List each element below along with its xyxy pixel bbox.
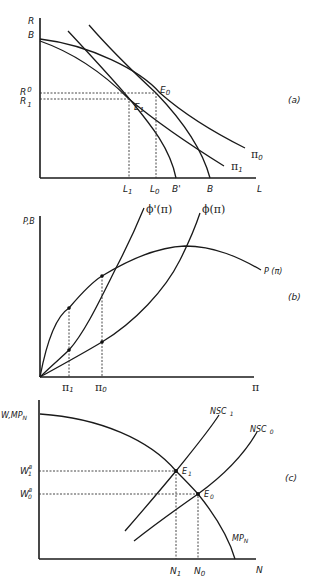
panel-b: P,B ϕ'(π) ϕ(π) P (π) (b) π1 π0 π xyxy=(23,203,301,394)
e1-label: E1 xyxy=(134,102,144,114)
w-mpn-axis-label: W,MPN xyxy=(1,411,28,421)
economic-diagram: R B R0 R1 E0 E1 L1 L0 B' B L π0 π1 (a) P… xyxy=(0,0,310,587)
panel-c: W,MPN W1B W0B NSC1 NSC0 MPN E1 E0 (c) N1… xyxy=(1,400,297,578)
l0-label: L0 xyxy=(150,184,160,196)
pi0-curve-label: π0 xyxy=(251,148,263,162)
w0b-label: W0B xyxy=(20,487,33,500)
panel-c-label: (c) xyxy=(285,473,297,483)
pi1-curve-label: π1 xyxy=(231,160,243,174)
l-axis-label: L xyxy=(257,184,262,194)
point-p-at-pi1 xyxy=(67,306,71,310)
b-prime-curve xyxy=(68,31,176,178)
point-p-at-pi0 xyxy=(100,274,104,278)
p-pi-curve xyxy=(40,246,261,377)
l1-label: L1 xyxy=(123,184,132,196)
point-phi-at-pi0 xyxy=(100,340,104,344)
phi-label: ϕ(π) xyxy=(202,203,225,216)
phi-prime-curve xyxy=(40,208,144,377)
p-pi-label: P (π) xyxy=(264,267,282,276)
phi-prime-label: ϕ'(π) xyxy=(146,203,172,216)
e0-label: E0 xyxy=(204,490,214,500)
b-label: B xyxy=(207,184,213,194)
pb-axis-label: P,B xyxy=(23,217,35,226)
nsc1-curve xyxy=(125,415,219,531)
nsc0-curve xyxy=(134,432,257,541)
pi0-tick-label: π0 xyxy=(95,381,107,394)
point-e1 xyxy=(174,469,178,473)
e0-guide-lines xyxy=(39,494,198,559)
e1-guide-lines xyxy=(39,471,176,559)
phi-curve xyxy=(40,213,200,377)
b-curve xyxy=(89,25,210,178)
panel-a-label: (a) xyxy=(288,95,301,105)
pi1-tick-label: π1 xyxy=(62,381,74,394)
b-intercept-label: B xyxy=(28,30,34,40)
nsc0-label: NSC0 xyxy=(250,425,274,435)
point-phi-prime-at-pi1 xyxy=(67,348,71,352)
pi-axis-label: π xyxy=(252,381,259,394)
mpn-curve xyxy=(40,414,235,559)
n0-label: N0 xyxy=(194,566,206,578)
w1b-label: W1B xyxy=(20,464,33,477)
panel-b-label: (b) xyxy=(288,292,301,302)
mpn-label: MPN xyxy=(232,534,249,544)
e1-label: E1 xyxy=(182,467,192,477)
b-prime-label: B' xyxy=(172,184,181,194)
nsc1-label: NSC1 xyxy=(210,407,233,417)
r1-label: R1 xyxy=(20,96,32,109)
point-e0 xyxy=(196,492,200,496)
panel-a: R B R0 R1 E0 E1 L1 L0 B' B L π0 π1 (a) xyxy=(20,16,301,196)
pi1-curve xyxy=(40,41,224,166)
n1-label: N1 xyxy=(170,566,181,578)
r-axis-label: R xyxy=(28,16,34,26)
n-axis-label: N xyxy=(256,565,263,575)
e1-guide-lines xyxy=(40,99,129,178)
